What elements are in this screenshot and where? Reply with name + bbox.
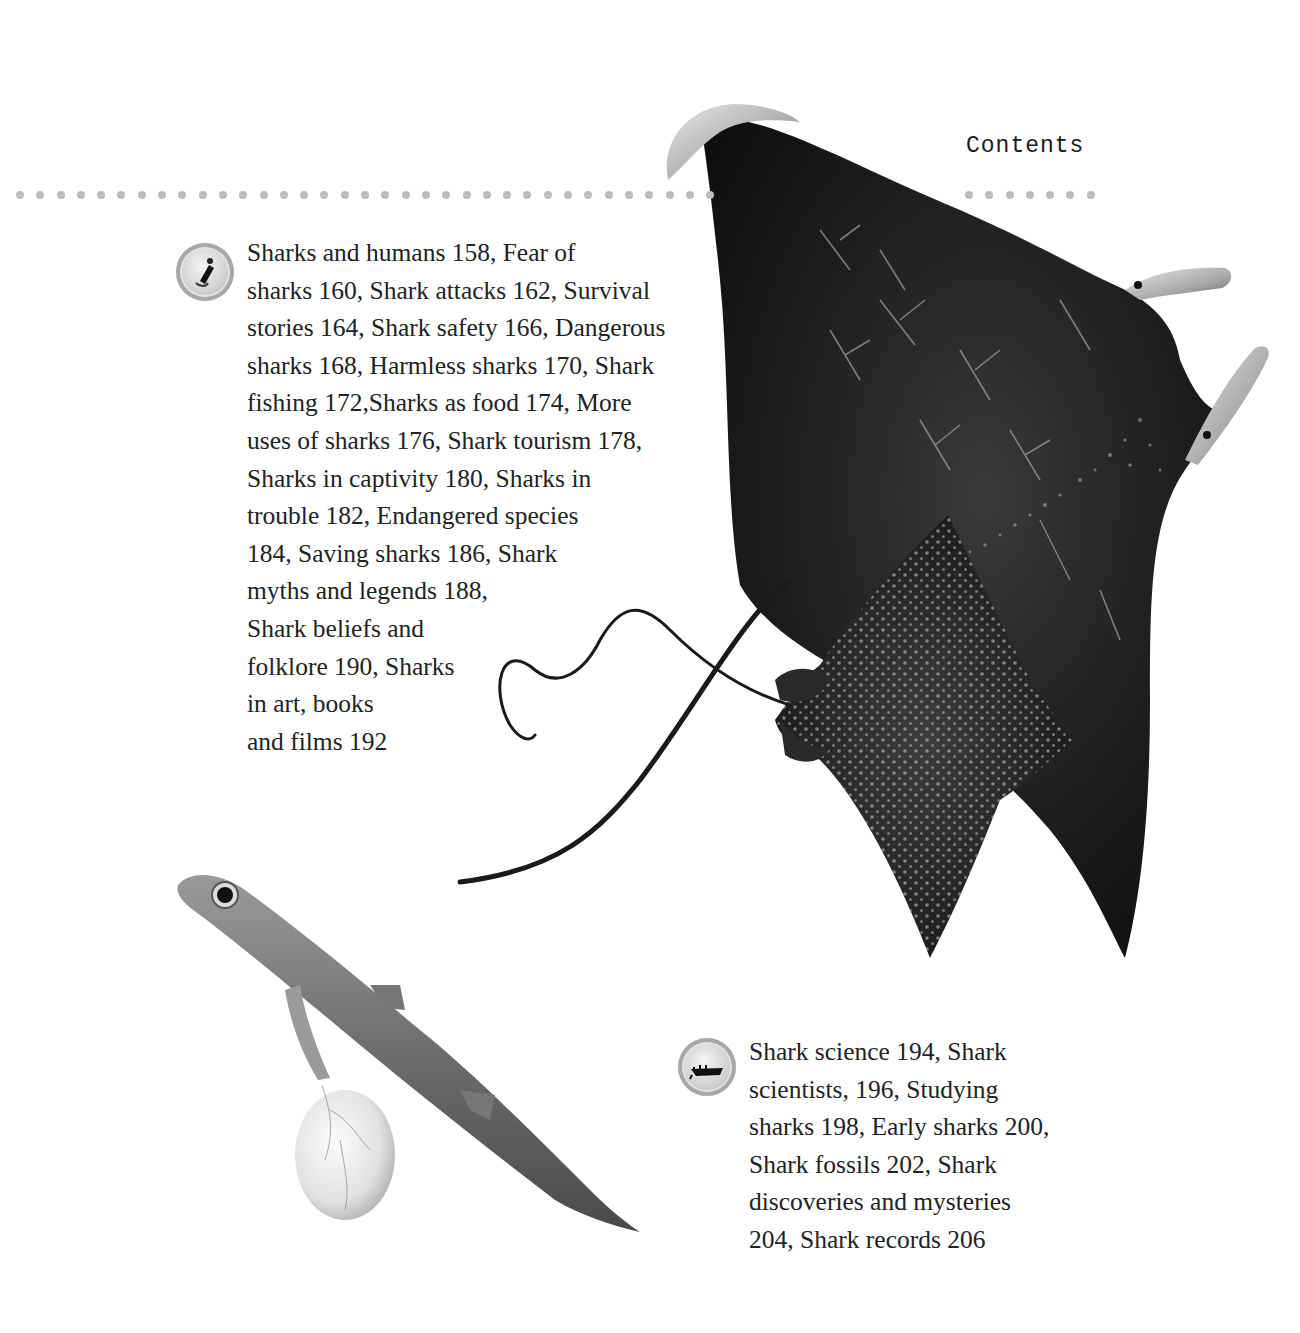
shark-embryo-illustration <box>177 875 640 1232</box>
toc-entries-text: Shark science 194, Shark scientists, 196… <box>749 1033 1049 1259</box>
contents-page: Contents Sharks and humans 158, Fear of … <box>0 0 1300 1333</box>
person-with-shark-badge-icon <box>176 243 234 301</box>
dotted-rule-right <box>965 191 1107 199</box>
toc-section-sharks-and-humans: Sharks and humans 158, Fear of sharks 16… <box>247 234 666 760</box>
toc-section-shark-science: Shark science 194, Shark scientists, 196… <box>749 1033 1049 1259</box>
toc-entries-text: Sharks and humans 158, Fear of sharks 16… <box>247 234 666 760</box>
dotted-rule-left <box>16 191 726 199</box>
running-head: Contents <box>966 133 1084 159</box>
boat-badge-icon <box>678 1038 736 1096</box>
